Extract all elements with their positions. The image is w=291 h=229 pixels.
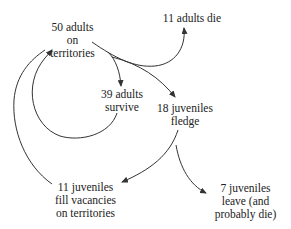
node-text-line: 50 adults [40,21,105,34]
population-flow-diagram: 50 adults on territories 11 adults die 3… [0,0,291,229]
node-text-line: on [40,34,105,47]
node-text-line: 39 adults [92,88,152,101]
node-text-line: 11 adults die [152,12,232,25]
arrow-fledge-to-fill [122,130,178,182]
node-text-line: 7 juveniles [208,182,283,195]
node-text-line: leave (and [208,195,283,208]
node-text-line: 11 juveniles [48,181,123,194]
node-juveniles-fledge: 18 juveniles fledge [150,102,220,128]
node-text-line: probably die) [208,208,283,221]
node-adults-on-territories: 50 adults on territories [40,21,105,60]
node-text-line: on territories [48,207,123,220]
node-text-line: territories [40,47,105,60]
arrow-adults-to-die [92,28,184,66]
node-text-line: 18 juveniles [150,102,220,115]
arrow-adults-to-survive [108,52,121,86]
arrow-fill-to-adults [14,50,52,184]
arrow-fledge-to-leave [176,145,206,193]
node-adults-die: 11 adults die [152,12,232,25]
node-text-line: survive [92,101,152,114]
node-juveniles-fill-vacancies: 11 juveniles fill vacancies on territori… [48,181,123,220]
node-adults-survive: 39 adults survive [92,88,152,114]
node-text-line: fill vacancies [48,194,123,207]
node-juveniles-leave: 7 juveniles leave (and probably die) [208,182,283,221]
node-text-line: fledge [150,115,220,128]
